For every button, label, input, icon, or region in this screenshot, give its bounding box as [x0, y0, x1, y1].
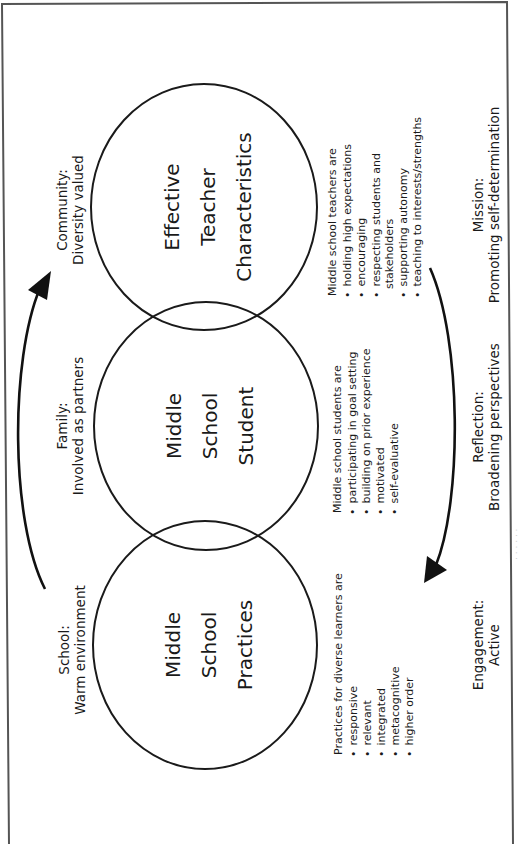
family-label: Family: Involved as partners: [54, 357, 86, 495]
engagement-heading: Engagement:: [470, 600, 486, 691]
list-item: •self-evaluative: [388, 423, 401, 515]
bullet-icon: •: [355, 292, 368, 299]
list-item: •relevant: [361, 699, 374, 757]
engagement-sub: Active: [486, 624, 502, 666]
student-list-title: Middle school students are: [331, 365, 344, 513]
bullet-icon: •: [411, 292, 424, 299]
student-label-line-2: School: [198, 393, 222, 459]
bullet-icon: •: [397, 292, 410, 299]
engagement-label: Engagement: Active: [470, 600, 502, 691]
list-item: •participating in goal setting: [346, 352, 359, 515]
arrowhead-up-icon: [28, 271, 51, 300]
bullet-icon: •: [403, 751, 416, 758]
diagram-canvas: . . . . . . Effective Teacher Characteri…: [0, 0, 519, 844]
diagram-page: . . . . . . Effective Teacher Characteri…: [0, 0, 519, 844]
mission-heading: Mission:: [470, 178, 486, 233]
school-label: School: Warm environment: [56, 585, 88, 715]
school-sub: Warm environment: [72, 585, 88, 715]
teacher-label-line-1: Effective: [160, 163, 184, 250]
teacher-list-title: Middle school teachers are: [326, 148, 339, 296]
list-item: •motivated: [374, 447, 387, 515]
school-heading: School:: [56, 625, 72, 674]
reflection-heading: Reflection:: [470, 391, 486, 463]
arrowhead-down-icon: [424, 556, 447, 583]
bullet-icon: •: [388, 509, 401, 516]
list-item: •holding high expectations: [341, 144, 354, 298]
community-heading: Community:: [54, 169, 70, 251]
community-sub: Diversity valued: [70, 155, 86, 265]
practices-label-line-2: School: [197, 612, 221, 678]
list-item: •responsive: [347, 686, 360, 757]
list-item: •respecting students and: [370, 153, 383, 298]
student-list: Middle school students are •participatin…: [331, 348, 401, 515]
bullet-icon: •: [389, 751, 402, 758]
cut-off-caption: . . . . . .: [509, 529, 519, 560]
practices-label-line-1: Middle: [161, 612, 185, 678]
mission-sub: Promoting self-determination: [486, 107, 502, 304]
community-label: Community: Diversity valued: [54, 155, 86, 265]
family-heading: Family:: [54, 402, 70, 449]
bullet-icon: •: [346, 509, 359, 516]
student-label-line-3: Student: [234, 386, 258, 465]
reflection-label: Reflection: Broadening perspectives: [470, 343, 502, 511]
teacher-circle-label: Effective Teacher Characteristics: [160, 132, 256, 282]
family-sub: Involved as partners: [70, 357, 86, 495]
list-item: •integrated: [375, 688, 388, 757]
teacher-label-line-2: Teacher: [196, 167, 220, 246]
bullet-icon: •: [370, 292, 383, 299]
reflection-sub: Broadening perspectives: [486, 343, 502, 511]
bullet-icon: •: [347, 751, 360, 758]
left-arrow-shaft: [18, 288, 45, 589]
list-item: •teaching to interests/strengths: [411, 117, 424, 298]
bullet-icon: •: [341, 292, 354, 299]
list-item-continuation: stakeholders: [383, 218, 396, 289]
list-item: •supporting autonomy: [397, 168, 410, 298]
student-label-line-1: Middle: [162, 393, 186, 459]
practices-list: Practices for diverse learners are •resp…: [332, 573, 416, 757]
mission-label: Mission: Promoting self-determination: [470, 107, 502, 304]
right-cycle-arrow: [424, 268, 455, 583]
bullet-icon: •: [374, 509, 387, 516]
left-cycle-arrow: [18, 271, 51, 589]
list-item: •metacognitive: [389, 666, 402, 757]
bullet-icon: •: [361, 751, 374, 758]
practices-label-line-3: Practices: [233, 600, 257, 690]
list-item: •building on prior experience: [360, 348, 373, 515]
right-arrow-shaft: [430, 268, 455, 565]
bullet-icon: •: [375, 751, 388, 758]
list-item: •encouraging: [355, 218, 368, 298]
practices-circle-label: Middle School Practices: [161, 600, 257, 690]
teacher-list: Middle school teachers are •holding high…: [326, 117, 424, 298]
bullet-icon: •: [360, 509, 373, 516]
practices-list-title: Practices for diverse learners are: [332, 573, 345, 755]
svg-text:. . . . . .: . . . . . .: [509, 529, 519, 560]
list-item: •higher order: [403, 677, 416, 757]
teacher-label-line-3: Characteristics: [232, 132, 256, 282]
student-circle-label: Middle School Student: [162, 386, 258, 465]
